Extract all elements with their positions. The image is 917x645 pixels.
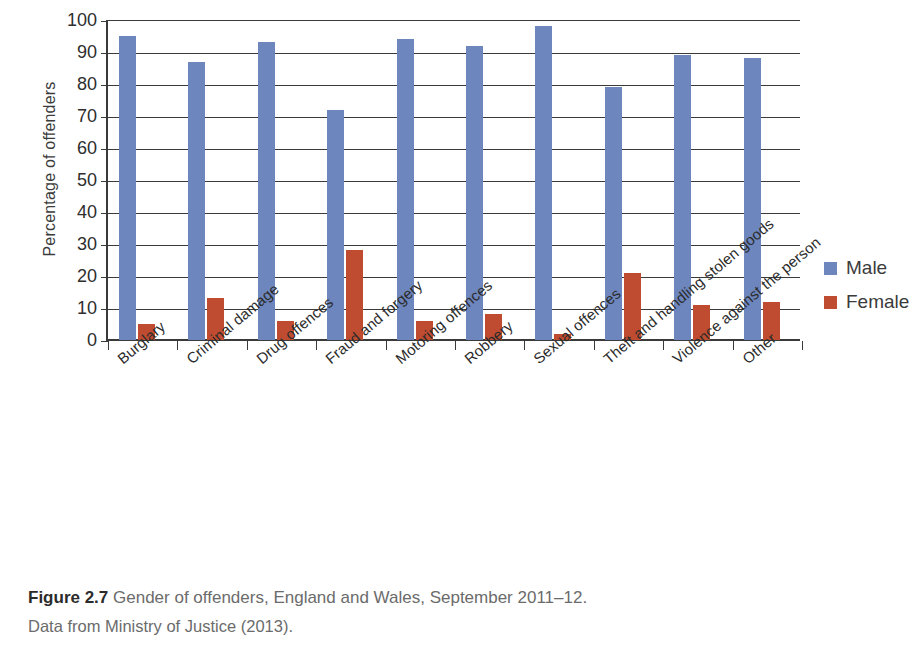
figure-number: Figure 2.7 <box>28 588 108 607</box>
gridline <box>108 181 800 182</box>
y-axis-tick-mark <box>101 245 108 246</box>
gridline <box>108 85 800 86</box>
gridline <box>108 117 800 118</box>
gridline <box>108 149 800 150</box>
figure-page: Percentage of offenders 1009080706050403… <box>0 0 917 645</box>
legend-item-male[interactable]: Male <box>824 251 914 285</box>
y-axis-tick-mark <box>101 85 108 86</box>
y-axis-tick-label: 80 <box>37 74 97 95</box>
y-axis-tick-label: 50 <box>37 170 97 191</box>
chart-legend: MaleFemale <box>824 251 914 319</box>
y-axis-tick-label: 30 <box>37 234 97 255</box>
legend-swatch-female <box>824 296 837 309</box>
figure-source-note: Data from Ministry of Justice (2013). <box>28 612 898 641</box>
legend-swatch-male <box>824 262 837 275</box>
y-axis-tick-label: 10 <box>37 298 97 319</box>
y-axis-tick-mark <box>101 117 108 118</box>
y-axis-tick-mark <box>101 309 108 310</box>
bar-male <box>535 26 552 340</box>
y-axis-tick-mark <box>101 21 108 22</box>
bar-chart: Percentage of offenders 1009080706050403… <box>0 0 917 565</box>
y-axis-tick-label: 90 <box>37 42 97 63</box>
y-axis-tick-label: 70 <box>37 106 97 127</box>
figure-caption-text: Gender of offenders, England and Wales, … <box>108 588 587 607</box>
bar-male <box>188 62 205 340</box>
y-axis-tick-mark <box>101 213 108 214</box>
y-axis-tick-label: 60 <box>37 138 97 159</box>
y-axis-tick-mark <box>101 149 108 150</box>
gridline <box>108 53 800 54</box>
y-axis-tick-mark <box>101 181 108 182</box>
legend-item-female[interactable]: Female <box>824 285 914 319</box>
figure-caption: Figure 2.7 Gender of offenders, England … <box>28 583 898 641</box>
gridline <box>108 245 800 246</box>
legend-label: Male <box>846 257 887 279</box>
y-axis-tick-label: 100 <box>37 10 97 31</box>
y-axis-tick-label: 40 <box>37 202 97 223</box>
gridline <box>108 213 800 214</box>
legend-label: Female <box>846 291 909 313</box>
y-axis-tick-label: 20 <box>37 266 97 287</box>
y-axis-tick-mark <box>101 277 108 278</box>
y-axis-tick-mark <box>101 53 108 54</box>
x-axis-category-labels: BurglaryCriminal damageDrug offencesFrau… <box>0 340 917 520</box>
bar-male <box>119 36 136 340</box>
